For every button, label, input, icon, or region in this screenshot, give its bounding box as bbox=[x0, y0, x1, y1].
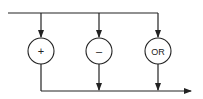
plus-operator-label: + bbox=[38, 45, 44, 57]
node-minus: – bbox=[86, 13, 112, 90]
or-operator-label: OR bbox=[151, 47, 165, 57]
node-or: OR bbox=[145, 13, 171, 90]
minus-operator-label: – bbox=[96, 45, 103, 57]
node-plus: + bbox=[28, 13, 54, 91]
operator-flow-diagram: + – OR bbox=[0, 0, 203, 99]
diagram-canvas: + – OR bbox=[0, 0, 203, 99]
